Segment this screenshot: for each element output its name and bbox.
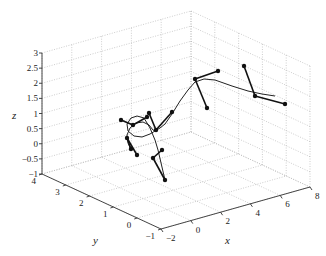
floor-grid-line — [131, 149, 250, 204]
z-tick-label: 3 — [34, 48, 39, 58]
y-tick-label: 2 — [79, 198, 84, 208]
floor-grid-line — [72, 166, 191, 221]
wall-grid-line — [191, 26, 310, 81]
x-tick — [280, 195, 282, 198]
wall-grid-line — [42, 132, 191, 174]
floor-grid-line — [66, 143, 215, 185]
wall-grid-line — [42, 87, 191, 129]
wall-grid-line — [42, 56, 191, 98]
wall-grid-line — [191, 117, 310, 172]
frame-point-marker — [283, 102, 287, 106]
frame-point-marker — [242, 64, 246, 68]
frame-point-marker — [216, 69, 220, 73]
grid-lines — [42, 11, 310, 229]
frame-segment — [127, 138, 137, 155]
wall-grid-line — [191, 41, 310, 96]
frame-point-marker — [147, 111, 151, 115]
floor-grid-line — [137, 176, 286, 218]
wall-grid-line — [191, 132, 310, 187]
wall-grid-line — [191, 11, 310, 66]
y-axis-line — [42, 174, 161, 229]
wall-grid-line — [42, 26, 191, 68]
z-tick-label: 2 — [34, 78, 39, 88]
z-tick-label: 1.5 — [27, 93, 39, 103]
frame-point-marker — [119, 118, 123, 122]
y-tick-label: −1 — [145, 231, 155, 241]
frame-point-marker — [131, 123, 135, 127]
y-tick — [63, 185, 66, 186]
frame-segment — [156, 112, 172, 130]
frame-point-marker — [193, 77, 197, 81]
x-tick — [161, 229, 163, 232]
frame-point-marker — [135, 153, 139, 157]
y-tick — [87, 196, 90, 197]
floor-grid-line — [161, 140, 280, 195]
x-tick-label: 2 — [226, 216, 231, 226]
x-tick-label: 0 — [196, 225, 201, 235]
floor-grid-line — [113, 165, 262, 207]
x-tick — [191, 221, 193, 224]
wall-grid-line — [42, 72, 191, 114]
y-tick-label: 3 — [55, 187, 60, 197]
z-tick-label: 0 — [34, 139, 39, 149]
x-tick — [310, 187, 312, 190]
frame-point-marker — [170, 110, 174, 114]
y-tick-label: 4 — [32, 176, 37, 186]
frame-point-marker — [253, 94, 257, 98]
x-axis-label: x — [224, 234, 230, 246]
wall-grid-line — [191, 87, 310, 142]
frame-point-marker — [151, 156, 155, 160]
frame-point-marker — [145, 115, 149, 119]
wall-grid-line — [42, 102, 191, 144]
y-tick — [134, 218, 137, 219]
z-axis-label: z — [11, 109, 17, 121]
x-tick — [250, 204, 252, 207]
frame-point-marker — [163, 178, 167, 182]
y-axis-label: y — [92, 234, 98, 246]
wall-grid-line — [42, 11, 191, 53]
x-tick-label: 6 — [285, 199, 290, 209]
frame-point-marker — [154, 128, 158, 132]
z-tick-label: 1 — [34, 109, 39, 119]
y-tick-label: 1 — [103, 209, 108, 219]
z-tick-label: 0.5 — [27, 124, 39, 134]
x-tick-label: 4 — [255, 208, 260, 218]
plot-3d: −1−0.500.511.522.53−101234−202468 z y x — [0, 0, 326, 256]
x-tick-label: 8 — [315, 191, 320, 201]
frame-point-marker — [205, 106, 209, 110]
frame-point-marker — [160, 148, 164, 152]
z-tick-label: 2.5 — [27, 63, 39, 73]
frame-segment — [133, 117, 147, 125]
wall-grid-line — [191, 102, 310, 157]
y-tick — [110, 207, 113, 208]
x-tick-label: −2 — [166, 233, 176, 243]
z-tick-label: −0.5 — [22, 154, 39, 164]
wall-grid-line — [42, 41, 191, 83]
tick-labels: −1−0.500.511.522.53−101234−202468 — [22, 48, 320, 243]
x-tick — [221, 212, 223, 215]
y-tick — [158, 229, 161, 230]
wall-grid-line — [42, 117, 191, 159]
y-tick-label: 0 — [127, 220, 132, 230]
frame-point-marker — [125, 136, 129, 140]
